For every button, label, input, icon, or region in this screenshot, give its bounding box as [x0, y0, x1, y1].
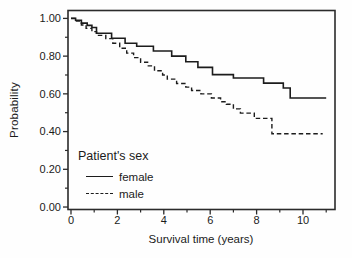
y-tick-label: 0.60	[40, 88, 61, 100]
x-tick-label: 8	[254, 214, 260, 226]
y-tick-label: 0.20	[40, 163, 61, 175]
y-tick-label: 0.40	[40, 125, 61, 137]
x-tick-label: 2	[114, 214, 120, 226]
legend-title: Patient's sex	[78, 149, 154, 163]
legend-item-male: male	[86, 185, 154, 202]
x-axis-title: Survival time (years)	[149, 233, 254, 245]
km-survival-figure: 02468100.000.200.400.600.801.00 Probabil…	[0, 0, 352, 258]
legend: Patient's sex female male	[78, 149, 154, 202]
y-axis-title: Probability	[8, 82, 20, 138]
legend-label-male: male	[119, 188, 144, 200]
survival-curve-male	[71, 18, 323, 133]
x-tick-label: 10	[297, 214, 309, 226]
survival-chart-canvas: 02468100.000.200.400.600.801.00	[0, 0, 352, 258]
survival-curve-female	[71, 18, 326, 98]
y-tick-label: 1.00	[40, 12, 61, 24]
x-tick-label: 0	[68, 214, 74, 226]
x-tick-label: 6	[207, 214, 213, 226]
x-tick-label: 4	[161, 214, 167, 226]
legend-item-female: female	[86, 168, 154, 185]
y-tick-label: 0.00	[40, 201, 61, 213]
legend-line-sample-female	[86, 176, 113, 177]
y-tick-label: 0.80	[40, 50, 61, 62]
legend-line-sample-male	[86, 193, 113, 194]
legend-label-female: female	[119, 171, 154, 183]
